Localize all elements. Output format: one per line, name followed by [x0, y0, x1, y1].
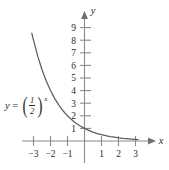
y-tick-label-8: 8 [71, 36, 76, 46]
right-paren: ) [37, 97, 42, 114]
fraction-one-half: 1 2 [29, 96, 35, 115]
equation-exponent: x [44, 95, 47, 103]
y-tick-label-9: 9 [71, 23, 76, 33]
x-axis-label: x [158, 135, 164, 146]
exponential-decay-graph-figure: −3 −2 −1 1 2 3 1 2 3 4 5 6 7 8 9 y x y =… [0, 0, 169, 170]
left-paren: ( [22, 97, 27, 114]
x-tick-label-neg3: −3 [28, 149, 38, 159]
x-tick-label-2: 2 [116, 149, 121, 159]
y-axis-arrow-icon [81, 11, 88, 19]
y-tick-label-5: 5 [71, 73, 76, 83]
function-equation-label: y = ( 1 2 ) x [5, 96, 47, 115]
x-axis-arrow-icon [148, 138, 156, 145]
x-tick-label-neg1: −1 [62, 149, 72, 159]
x-tick-label-3: 3 [133, 149, 138, 159]
x-tick-label-1: 1 [99, 149, 104, 159]
y-tick-label-4: 4 [71, 86, 76, 96]
equation-lhs: y [5, 100, 10, 111]
equation-equals-sign: = [12, 100, 18, 111]
fraction-denominator: 2 [29, 106, 35, 115]
y-tick-label-1: 1 [71, 124, 76, 134]
graph-canvas: −3 −2 −1 1 2 3 1 2 3 4 5 6 7 8 9 y x [0, 0, 169, 170]
fraction-numerator: 1 [29, 96, 35, 105]
y-tick-label-6: 6 [71, 61, 76, 71]
x-tick-label-neg2: −2 [45, 149, 55, 159]
y-tick-label-3: 3 [71, 99, 76, 109]
y-tick-label-7: 7 [71, 48, 76, 58]
y-axis-label: y [90, 5, 96, 16]
